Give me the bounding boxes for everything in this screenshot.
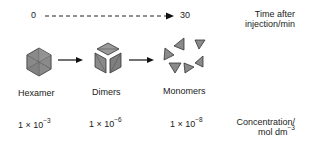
concentration-axis-label: Concentration/ mol dm−3 [236,117,295,137]
arrow-hexamer-to-dimers [58,57,83,63]
hexamer-hexagon-icon [27,48,51,76]
concentration-label-line1: Concentration/ [236,117,295,127]
timeline-start-label: 0 [31,10,36,20]
species-label-dimers: Dimers [92,87,121,97]
concentration-hexamer: 1 × 10−3 [18,120,51,130]
timeline-dashed-arrow [45,13,174,20]
dimer-cube-icon [95,43,121,73]
concentration-monomers: 1 × 10−8 [170,119,203,129]
time-axis-label-line1: Time after [245,9,295,19]
timeline-end-label: 30 [180,10,190,20]
arrow-dimers-to-monomers [129,57,154,63]
species-label-monomers: Monomers [163,86,206,96]
monomer-triangles-icon [164,38,205,73]
time-axis-label: Time after injection/min [245,9,295,29]
time-axis-label-line2: injection/min [245,19,295,29]
concentration-dimers: 1 × 10−6 [89,119,122,129]
species-label-hexamer: Hexamer [18,88,55,98]
concentration-label-line2: mol dm−3 [236,127,295,137]
